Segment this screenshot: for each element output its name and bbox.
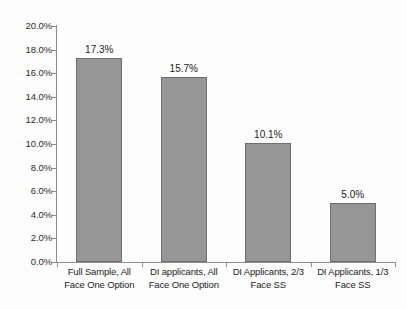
x-axis-category-label: Full Sample, AllFace One Option bbox=[57, 266, 142, 291]
bar[interactable] bbox=[76, 58, 122, 262]
y-axis-tick-label: 20.0% bbox=[4, 21, 52, 31]
y-axis-tick: 14.0% bbox=[0, 92, 52, 102]
y-axis-tick-label: 18.0% bbox=[4, 45, 52, 55]
y-axis-tick-label: 0.0% bbox=[4, 257, 52, 267]
y-axis-tick: 4.0% bbox=[0, 210, 52, 220]
bar-chart: 0.0%2.0%4.0%6.0%8.0%10.0%12.0%14.0%16.0%… bbox=[0, 0, 407, 309]
y-axis-tick-label: 16.0% bbox=[4, 68, 52, 78]
x-axis-category-label-line: DI Applicants, 1/3 bbox=[311, 266, 396, 279]
x-axis-category-labels: Full Sample, AllFace One OptionDI applic… bbox=[57, 266, 395, 306]
bar[interactable] bbox=[330, 203, 376, 262]
y-axis-tick: 18.0% bbox=[0, 45, 52, 55]
x-axis-category-label-line: DI applicants, All bbox=[142, 266, 227, 279]
y-axis-tick: 0.0% bbox=[0, 257, 52, 267]
y-axis-tick-label: 2.0% bbox=[4, 233, 52, 243]
bar-value-label: 17.3% bbox=[85, 44, 113, 55]
bar-value-label: 5.0% bbox=[341, 189, 364, 200]
y-axis-tick: 16.0% bbox=[0, 68, 52, 78]
y-axis-tick: 10.0% bbox=[0, 139, 52, 149]
y-axis-tick-label: 6.0% bbox=[4, 186, 52, 196]
x-axis-category-label-line: DI Applicants, 2/3 bbox=[226, 266, 311, 279]
bar-value-label: 15.7% bbox=[170, 63, 198, 74]
y-axis-tick: 12.0% bbox=[0, 115, 52, 125]
y-axis-tick: 20.0% bbox=[0, 21, 52, 31]
x-axis-category-label: DI Applicants, 2/3Face SS bbox=[226, 266, 311, 291]
y-axis-tick-label: 4.0% bbox=[4, 210, 52, 220]
bar-group: 10.1% bbox=[226, 26, 311, 262]
x-axis-category-label-line: Face One Option bbox=[142, 279, 227, 292]
bar-group: 5.0% bbox=[311, 26, 396, 262]
bar[interactable] bbox=[245, 143, 291, 262]
bar-group: 15.7% bbox=[142, 26, 227, 262]
y-axis-tick: 2.0% bbox=[0, 233, 52, 243]
x-axis-category-label: DI Applicants, 1/3Face SS bbox=[311, 266, 396, 291]
bar[interactable] bbox=[161, 77, 207, 262]
x-axis-category-label-line: Face SS bbox=[226, 279, 311, 292]
x-axis-category-label: DI applicants, AllFace One Option bbox=[142, 266, 227, 291]
x-axis-category-label-line: Face SS bbox=[311, 279, 396, 292]
y-axis-tick-label: 10.0% bbox=[4, 139, 52, 149]
y-axis-tick-label: 8.0% bbox=[4, 163, 52, 173]
bar-group: 17.3% bbox=[57, 26, 142, 262]
y-axis-tick-label: 12.0% bbox=[4, 115, 52, 125]
y-axis-tick-label: 14.0% bbox=[4, 92, 52, 102]
bar-value-label: 10.1% bbox=[254, 129, 282, 140]
plot-area: 17.3%15.7%10.1%5.0% bbox=[57, 26, 395, 262]
x-axis-category-label-line: Face One Option bbox=[57, 279, 142, 292]
y-axis-tick: 6.0% bbox=[0, 186, 52, 196]
x-axis-category-label-line: Full Sample, All bbox=[57, 266, 142, 279]
x-axis-tick-mark bbox=[395, 262, 396, 267]
y-axis-tick: 8.0% bbox=[0, 163, 52, 173]
